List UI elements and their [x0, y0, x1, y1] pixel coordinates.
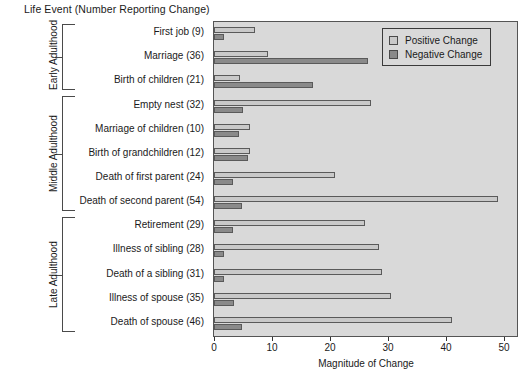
category-axis-labels: First job (9)Marriage (36)Birth of child…	[0, 21, 209, 337]
bar-group	[214, 196, 518, 210]
bar-positive	[214, 51, 268, 57]
bar-positive	[214, 27, 255, 33]
bar-positive	[214, 196, 498, 202]
x-axis-title: Magnitude of Change	[213, 358, 519, 369]
bar-negative	[214, 276, 224, 282]
category-label: Birth of children (21)	[0, 74, 209, 85]
legend-item-positive-change: Positive Change	[389, 33, 482, 47]
bar-negative	[214, 324, 242, 330]
category-label: First job (9)	[0, 26, 209, 37]
bar-group	[214, 244, 518, 258]
x-axis-tick-label: 10	[266, 342, 277, 353]
bar-negative	[214, 34, 224, 40]
chart-root: Life Event (Number Reporting Change) Ear…	[0, 0, 531, 391]
x-axis-tick	[504, 337, 505, 341]
x-axis-tick-label: 0	[211, 342, 217, 353]
value-axis: 01020304050	[213, 337, 519, 357]
bar-group	[214, 172, 518, 186]
x-axis-tick	[388, 337, 389, 341]
category-label: Death of second parent (54)	[0, 195, 209, 206]
legend-label-negative: Negative Change	[405, 49, 482, 60]
x-axis-tick-label: 40	[440, 342, 451, 353]
x-axis-tick-label: 20	[324, 342, 335, 353]
bar-group	[214, 124, 518, 138]
bar-negative	[214, 203, 242, 209]
bar-positive	[214, 75, 240, 81]
chart-legend: Positive Change Negative Change	[382, 28, 491, 66]
category-label: Marriage (36)	[0, 50, 209, 61]
bar-group	[214, 220, 518, 234]
category-label: Death of first parent (24)	[0, 171, 209, 182]
bar-positive	[214, 148, 250, 154]
bar-negative	[214, 155, 248, 161]
bar-positive	[214, 293, 391, 299]
x-axis-tick	[214, 337, 215, 341]
bar-positive	[214, 100, 371, 106]
bar-negative	[214, 131, 239, 137]
bar-positive	[214, 124, 250, 130]
bar-negative	[214, 179, 233, 185]
category-label: Death of spouse (46)	[0, 316, 209, 327]
bar-group	[214, 75, 518, 89]
bar-positive	[214, 172, 335, 178]
bar-group	[214, 100, 518, 114]
legend-item-negative-change: Negative Change	[389, 47, 482, 61]
x-axis-tick	[330, 337, 331, 341]
bar-negative	[214, 300, 234, 306]
bar-negative	[214, 251, 224, 257]
x-axis-tick-label: 30	[382, 342, 393, 353]
bar-series-container	[214, 22, 518, 336]
category-label: Empty nest (32)	[0, 99, 209, 110]
category-label: Illness of sibling (28)	[0, 243, 209, 254]
bar-group	[214, 269, 518, 283]
legend-swatch-positive-icon	[389, 36, 398, 45]
x-axis-tick	[272, 337, 273, 341]
legend-label-positive: Positive Change	[405, 35, 478, 46]
bar-positive	[214, 317, 452, 323]
category-label: Illness of spouse (35)	[0, 292, 209, 303]
bar-negative	[214, 107, 243, 113]
category-label: Birth of grandchildren (12)	[0, 147, 209, 158]
bar-group	[214, 293, 518, 307]
legend-swatch-negative-icon	[389, 50, 398, 59]
category-label: Retirement (29)	[0, 219, 209, 230]
bar-negative	[214, 82, 313, 88]
bar-group	[214, 148, 518, 162]
bar-positive	[214, 220, 365, 226]
bar-positive	[214, 244, 379, 250]
bar-group	[214, 317, 518, 331]
x-axis-tick	[446, 337, 447, 341]
bar-positive	[214, 269, 382, 275]
chart-title: Life Event (Number Reporting Change)	[24, 3, 210, 15]
category-label: Death of a sibling (31)	[0, 268, 209, 279]
category-label: Marriage of children (10)	[0, 123, 209, 134]
bar-negative	[214, 58, 368, 64]
bar-negative	[214, 227, 233, 233]
x-axis-tick-label: 50	[498, 342, 509, 353]
